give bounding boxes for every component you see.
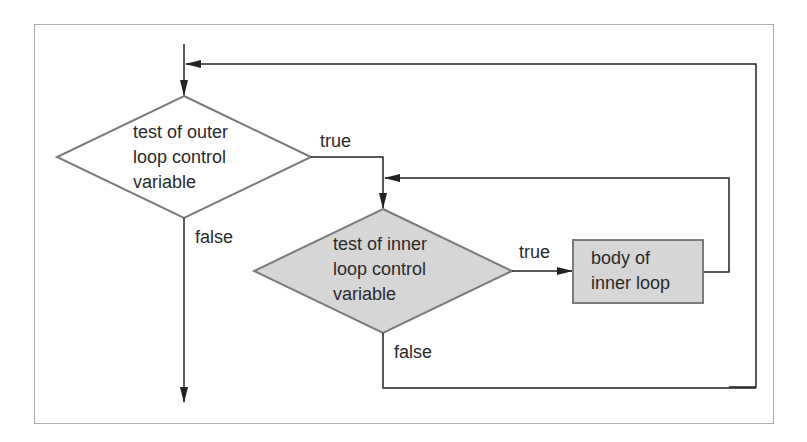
inner-false-label: false [394,340,432,364]
outer-true-edge [311,157,383,208]
outer-test-line-3: variable [133,170,228,195]
outer-test-line-1: test of outer [133,120,228,145]
inner-body-label: body of inner loop [591,246,670,296]
outer-false-label: false [195,225,233,249]
flowchart-canvas [0,0,807,442]
inner-body-line-1: body of [591,246,670,271]
inner-body-line-2: inner loop [591,271,670,296]
inner-test-line-3: variable [333,282,427,307]
inner-test-label: test of inner loop control variable [333,232,427,307]
outer-test-line-2: loop control [133,145,228,170]
outer-true-label: true [320,129,351,153]
inner-false-edge [383,333,756,388]
outer-test-label: test of outer loop control variable [133,120,228,195]
inner-test-line-1: test of inner [333,232,427,257]
outer-loop-back-edge [186,64,756,387]
inner-true-label: true [519,240,550,264]
inner-test-line-2: loop control [333,257,427,282]
